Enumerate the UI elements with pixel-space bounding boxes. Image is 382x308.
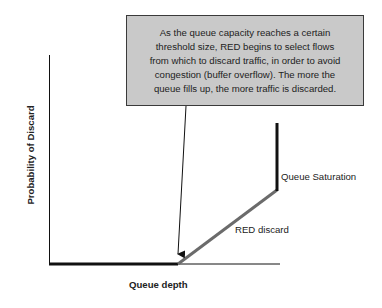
x-axis-label: Queue depth [129, 279, 188, 290]
callout-box: As the queue capacity reaches a certain … [126, 15, 364, 106]
callout-line: queue fills up, the more traffic is disc… [150, 82, 341, 96]
callout-line: threshold size, RED begins to select flo… [150, 40, 341, 54]
callout-text: As the queue capacity reaches a certain … [150, 26, 341, 96]
callout-line: As the queue capacity reaches a certain [150, 26, 341, 40]
callout-line: from which to discard traffic, in order … [150, 54, 341, 68]
red-discard-label: RED discard [235, 224, 289, 235]
y-axis-label: Probability of Discard [25, 105, 36, 204]
queue-saturation-label: Queue Saturation [281, 171, 356, 182]
callout-line: congestion (buffer overflow). The more t… [150, 68, 341, 82]
callout-pointer-arrow [178, 106, 186, 254]
